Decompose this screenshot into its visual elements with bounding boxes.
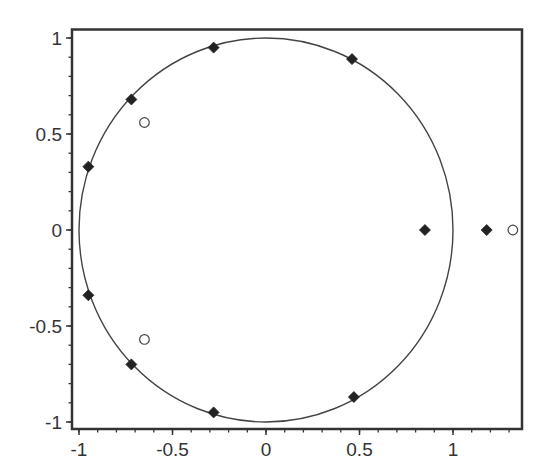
y-tick-label: 0 (51, 220, 62, 241)
open-circle-marker (140, 118, 150, 128)
x-tick-label: -1 (71, 439, 88, 460)
x-tick-label: 0 (261, 439, 272, 460)
open-circle-marker (508, 225, 518, 235)
diamond-marker (347, 54, 358, 65)
y-tick-label: -0.5 (29, 316, 62, 337)
x-tick-label: -0.5 (156, 439, 189, 460)
diamond-marker (208, 407, 219, 418)
open-circle-marker (140, 335, 150, 345)
diamond-marker (481, 225, 492, 236)
diamond-marker (126, 359, 137, 370)
y-axis-ticks: 10.50-0.5-1 (29, 28, 72, 433)
x-tick-label: 1 (448, 439, 459, 460)
diamond-marker (126, 94, 137, 105)
diamond-marker (83, 161, 94, 172)
y-tick-label: 1 (51, 28, 62, 49)
diamond-marker (419, 225, 430, 236)
diamond-marker (208, 42, 219, 53)
pole-zero-plot: -1-0.500.51 10.50-0.5-1 (0, 0, 548, 476)
x-tick-label: 0.5 (346, 439, 372, 460)
y-tick-label: 0.5 (36, 124, 62, 145)
y-tick-label: -1 (45, 412, 62, 433)
x-axis-ticks: -1-0.500.51 (71, 429, 510, 460)
